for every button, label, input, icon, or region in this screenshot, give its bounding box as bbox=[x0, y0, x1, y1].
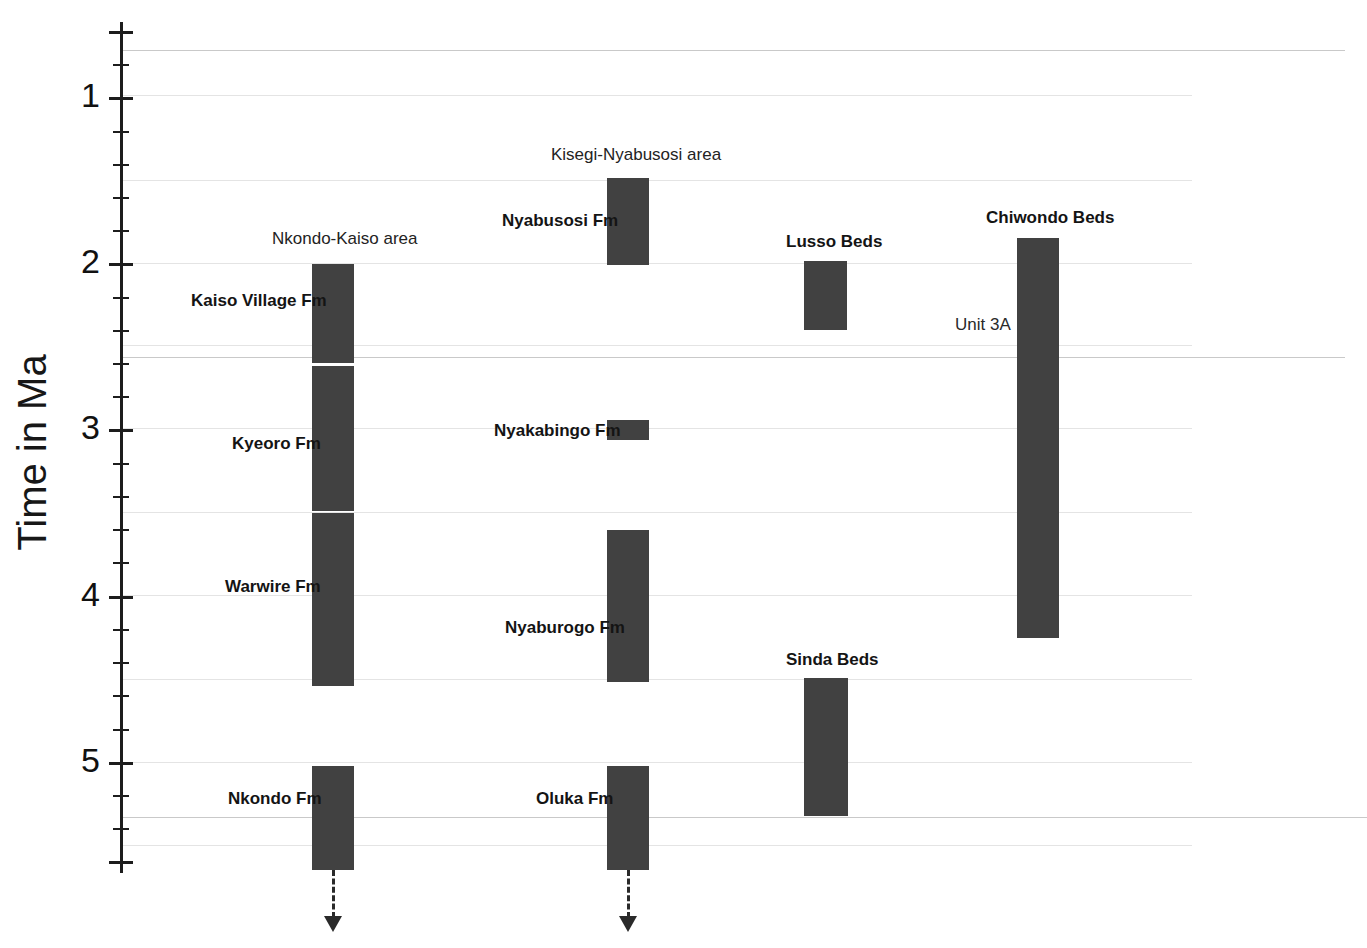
label-chiwondo-unit-3a: Unit 3A bbox=[955, 315, 1011, 335]
gridline bbox=[122, 679, 1192, 680]
label-sinda-beds: Sinda Beds bbox=[786, 650, 879, 670]
axis-tick-minor bbox=[113, 828, 129, 830]
axis-tick-label-1: 1 bbox=[40, 76, 100, 115]
axis-tick-minor bbox=[113, 396, 129, 398]
axis-tick-minor bbox=[113, 230, 129, 232]
axis-tick-minor bbox=[113, 562, 129, 564]
bar-nkondo-fm bbox=[312, 766, 354, 870]
axis-tick-minor bbox=[113, 297, 129, 299]
gridline bbox=[122, 357, 1345, 358]
oluka-fm-open-base-arrow-head bbox=[619, 916, 637, 932]
label-nyakabingo-fm: Nyakabingo Fm bbox=[494, 421, 621, 441]
bar-lusso-beds bbox=[804, 261, 847, 330]
axis-tick-label-2: 2 bbox=[40, 242, 100, 281]
bar-kaiso-village-fm bbox=[312, 264, 354, 363]
nkondo-fm-open-base-arrow-head bbox=[324, 916, 342, 932]
axis-tick-minor bbox=[113, 695, 129, 697]
column-header-kisegi-nyabusosi: Kisegi-Nyabusosi area bbox=[551, 145, 721, 165]
y-axis-line bbox=[120, 22, 123, 873]
axis-tick-major bbox=[109, 429, 133, 432]
axis-tick-major bbox=[109, 97, 133, 100]
axis-tick-minor bbox=[113, 795, 129, 797]
y-axis-title: Time in Ma bbox=[10, 293, 55, 613]
gridline bbox=[122, 845, 1192, 846]
column-header-nkondo-kaiso: Nkondo-Kaiso area bbox=[272, 229, 418, 249]
label-nkondo-fm: Nkondo Fm bbox=[228, 789, 322, 809]
bar-nyaburogo-fm bbox=[607, 530, 649, 682]
axis-tick-minor bbox=[113, 729, 129, 731]
oluka-fm-open-base-arrow-stem bbox=[627, 870, 630, 918]
axis-tick-major bbox=[109, 31, 133, 34]
label-kyeoro-fm: Kyeoro Fm bbox=[232, 434, 321, 454]
stratigraphic-chart: 1 2 3 4 5 Time in Ma Nkondo-Kaiso area K… bbox=[0, 0, 1367, 948]
label-oluka-fm: Oluka Fm bbox=[536, 789, 613, 809]
axis-tick-minor bbox=[113, 629, 129, 631]
axis-tick-minor bbox=[113, 496, 129, 498]
axis-tick-minor bbox=[113, 164, 129, 166]
axis-tick-major bbox=[109, 762, 133, 765]
label-kaiso-village-fm: Kaiso Village Fm bbox=[191, 291, 327, 311]
label-nyabusosi-fm: Nyabusosi Fm bbox=[502, 211, 618, 231]
axis-tick-minor bbox=[113, 463, 129, 465]
label-nyaburogo-fm: Nyaburogo Fm bbox=[505, 618, 625, 638]
label-chiwondo-beds: Chiwondo Beds bbox=[986, 208, 1114, 228]
gridline bbox=[122, 762, 1192, 763]
nkondo-fm-open-base-arrow-stem bbox=[332, 870, 335, 918]
axis-tick-minor bbox=[113, 529, 129, 531]
label-lusso-beds: Lusso Beds bbox=[786, 232, 882, 252]
axis-tick-major bbox=[109, 263, 133, 266]
gridline bbox=[122, 50, 1345, 51]
axis-tick-minor bbox=[113, 662, 129, 664]
axis-tick-major bbox=[109, 596, 133, 599]
axis-tick-minor bbox=[113, 363, 129, 365]
axis-tick-minor bbox=[113, 197, 129, 199]
label-warwire-fm: Warwire Fm bbox=[225, 577, 321, 597]
bar-oluka-fm bbox=[607, 766, 649, 870]
axis-tick-label-5: 5 bbox=[40, 741, 100, 780]
bar-chiwondo-beds bbox=[1017, 238, 1059, 638]
bar-warwire-fm bbox=[312, 513, 354, 686]
axis-tick-major bbox=[109, 861, 133, 864]
gridline bbox=[122, 817, 1367, 818]
axis-tick-minor bbox=[113, 330, 129, 332]
axis-tick-minor bbox=[113, 131, 129, 133]
axis-tick-minor bbox=[113, 64, 129, 66]
bar-sinda-beds bbox=[804, 678, 848, 816]
gridline bbox=[122, 180, 1192, 181]
gridline bbox=[122, 95, 1192, 96]
